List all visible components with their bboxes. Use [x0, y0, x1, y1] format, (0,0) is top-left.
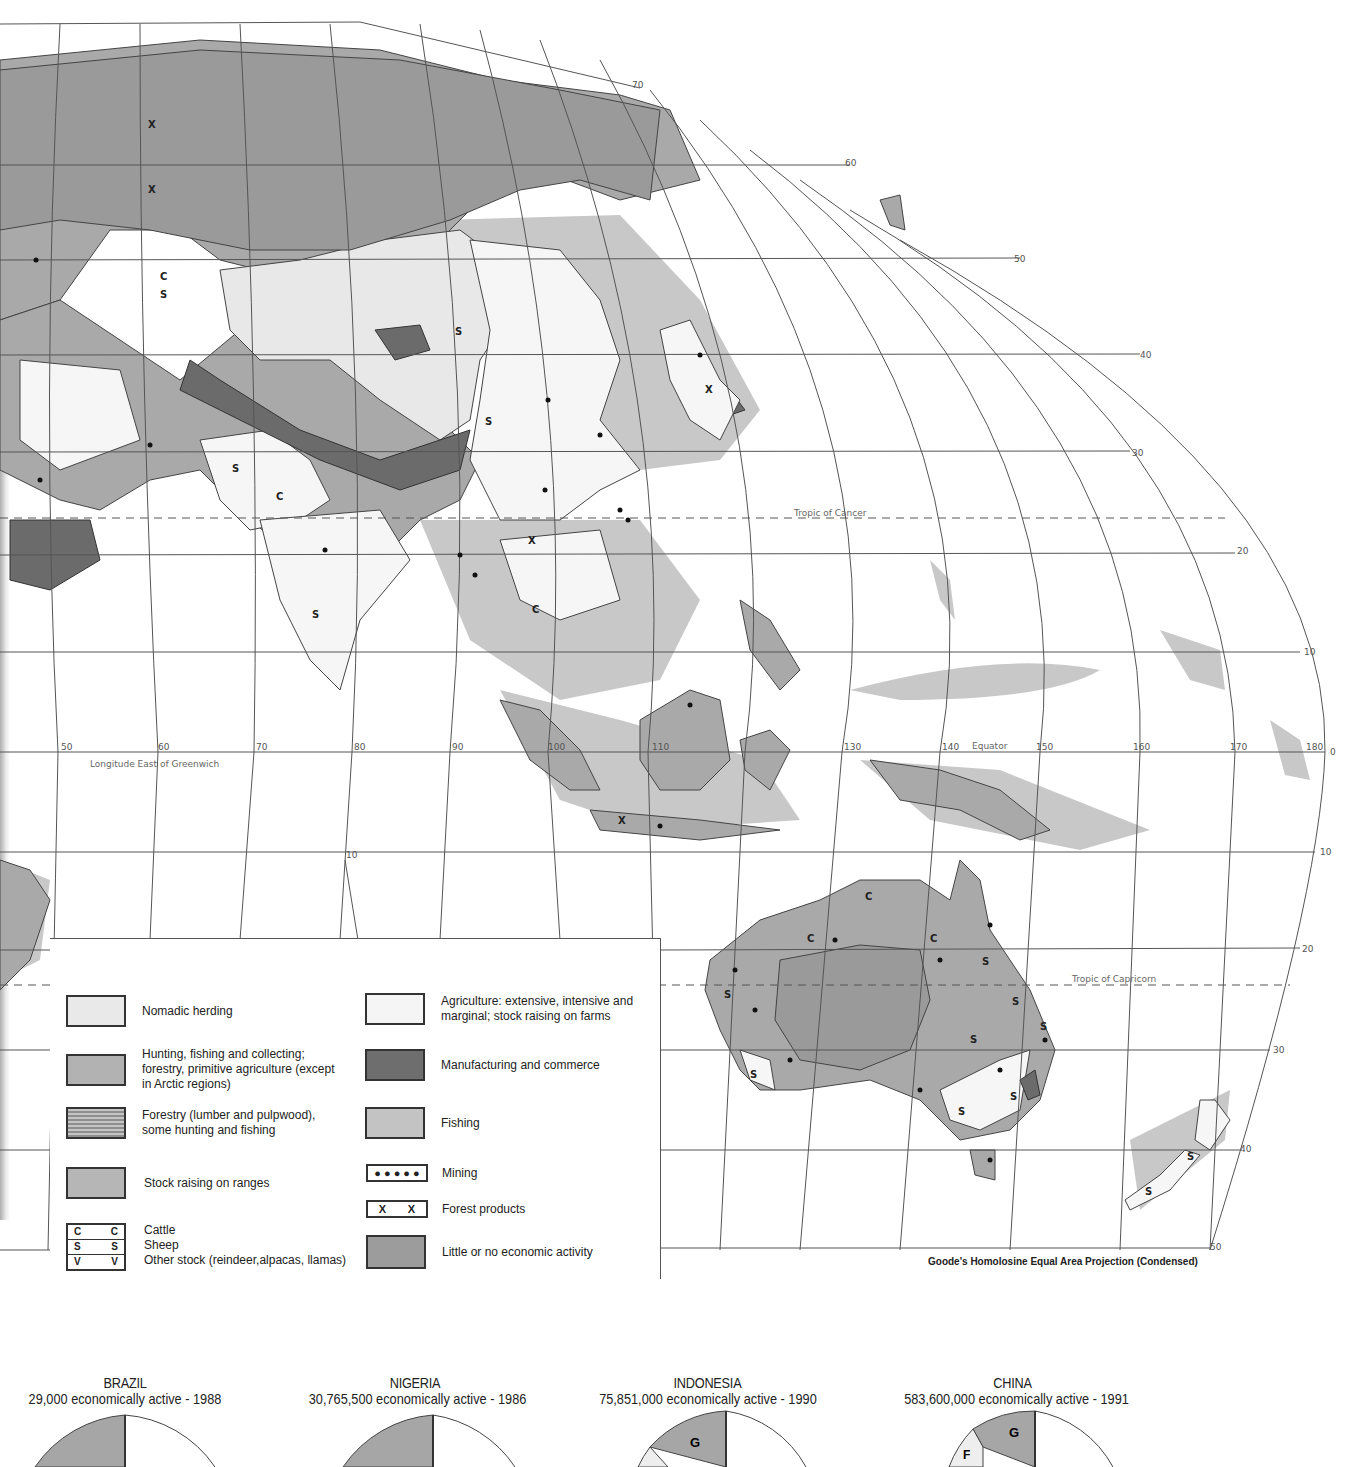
- forestry-swatch: [66, 1107, 126, 1139]
- svg-text:C: C: [276, 491, 283, 502]
- pie-title: CHINA: [904, 1375, 1121, 1391]
- pie-subtitle: 75,851,000 economically active - 1990: [599, 1391, 816, 1407]
- pie-china: CHINA 583,600,000 economically active - …: [885, 1375, 1140, 1467]
- svg-text:20: 20: [1302, 944, 1314, 954]
- svg-text:S: S: [160, 289, 167, 300]
- svg-text:90: 90: [452, 742, 464, 752]
- landmass-australia: [705, 860, 1055, 1180]
- pie-indonesia: INDONESIA 75,851,000 economically active…: [580, 1375, 835, 1467]
- svg-text:C: C: [807, 933, 814, 944]
- svg-text:60: 60: [158, 742, 170, 752]
- svg-text:10: 10: [1320, 847, 1332, 857]
- svg-text:X: X: [148, 184, 156, 195]
- svg-text:S: S: [750, 1069, 757, 1080]
- stock-symbols-swatch: CC SS VV: [66, 1223, 126, 1271]
- svg-text:30: 30: [1132, 448, 1144, 458]
- legend-label: Forest products: [442, 1202, 525, 1217]
- svg-text:150: 150: [1036, 742, 1053, 752]
- svg-text:180: 180: [1306, 742, 1323, 752]
- mining-swatch: ● ● ● ● ●: [366, 1164, 428, 1182]
- pie-chart: [315, 1407, 515, 1467]
- svg-text:S: S: [958, 1106, 965, 1117]
- svg-text:100: 100: [548, 742, 565, 752]
- pie-segment-label: F: [963, 1448, 970, 1462]
- legend-label: Mining: [442, 1166, 477, 1181]
- svg-text:50: 50: [61, 742, 73, 752]
- legend-label: Little or no economic activity: [442, 1245, 593, 1260]
- legend-label: Agriculture: extensive, intensive and ma…: [441, 994, 641, 1024]
- legend-item-forest-products: XX Forest products: [366, 1200, 525, 1218]
- svg-text:110: 110: [652, 742, 669, 752]
- svg-text:S: S: [485, 416, 492, 427]
- svg-text:S: S: [232, 463, 239, 474]
- legend-item-agriculture: Agriculture: extensive, intensive and ma…: [365, 993, 641, 1025]
- svg-text:20: 20: [1237, 546, 1249, 556]
- pie-subtitle: 583,600,000 economically active - 1991: [904, 1391, 1121, 1407]
- legend-item-nomadic-herding: Nomadic herding: [66, 995, 233, 1027]
- legend-label: Manufacturing and commerce: [441, 1058, 600, 1073]
- legend-item-hunting-fishing: Hunting, fishing and collecting; forestr…: [66, 1047, 342, 1092]
- legend-item-stock-symbols: CC SS VV Cattle Sheep Other stock (reind…: [66, 1223, 346, 1271]
- svg-text:S: S: [1145, 1186, 1152, 1197]
- pie-brazil: BRAZIL 29,000 economically active - 1988: [0, 1375, 250, 1467]
- svg-text:130: 130: [844, 742, 861, 752]
- legend-label: Fishing: [441, 1116, 480, 1131]
- little-activity-swatch: [366, 1235, 426, 1269]
- legend-item-forestry: Forestry (lumber and pulpwood), some hun…: [66, 1107, 342, 1139]
- hunting-fishing-swatch: [66, 1054, 126, 1086]
- legend-item-fishing: Fishing: [365, 1107, 480, 1139]
- legend-label: Forestry (lumber and pulpwood), some hun…: [142, 1108, 342, 1138]
- svg-text:30: 30: [1273, 1045, 1285, 1055]
- legend-item-stock-raising: Stock raising on ranges: [66, 1167, 269, 1199]
- pie-chart: G: [608, 1407, 808, 1467]
- pie-subtitle: 30,765,500 economically active - 1986: [309, 1391, 522, 1407]
- legend-item-manufacturing: Manufacturing and commerce: [365, 1049, 600, 1081]
- svg-text:X: X: [528, 535, 536, 546]
- svg-text:C: C: [930, 933, 937, 944]
- svg-text:S: S: [1012, 996, 1019, 1007]
- forest-products-swatch: XX: [366, 1200, 428, 1218]
- pie-chart: [25, 1407, 225, 1467]
- projection-caption: Goode's Homolosine Equal Area Projection…: [928, 1256, 1198, 1267]
- legend-item-little-activity: Little or no economic activity: [366, 1235, 593, 1269]
- svg-text:70: 70: [256, 742, 268, 752]
- agriculture-swatch: [365, 993, 425, 1025]
- svg-text:50: 50: [1014, 254, 1026, 264]
- svg-text:S: S: [312, 609, 319, 620]
- tropic-of-capricorn-label: Tropic of Capricorn: [1071, 974, 1156, 984]
- pie-segment-label: G: [1009, 1425, 1019, 1440]
- svg-text:S: S: [455, 326, 462, 337]
- svg-text:160: 160: [1133, 742, 1150, 752]
- fishing-swatch: [365, 1107, 425, 1139]
- svg-text:X: X: [618, 815, 626, 826]
- pie-title: BRAZIL: [19, 1375, 232, 1391]
- pie-title: INDONESIA: [599, 1375, 816, 1391]
- svg-text:60: 60: [845, 158, 857, 168]
- svg-text:10: 10: [346, 850, 358, 860]
- nomadic-herding-swatch: [66, 995, 126, 1027]
- svg-text:S: S: [1187, 1151, 1194, 1162]
- sheep-label: Sheep: [144, 1238, 346, 1253]
- pie-subtitle: 29,000 economically active - 1988: [19, 1391, 232, 1407]
- svg-text:140: 140: [942, 742, 959, 752]
- svg-text:0: 0: [1330, 747, 1336, 757]
- legend-label: Hunting, fishing and collecting; forestr…: [142, 1047, 342, 1092]
- svg-text:X: X: [148, 119, 156, 130]
- tropic-of-cancer-label: Tropic of Cancer: [793, 508, 867, 518]
- cattle-label: Cattle: [144, 1223, 346, 1238]
- pie-nigeria: NIGERIA 30,765,500 economically active -…: [290, 1375, 540, 1467]
- manufacturing-swatch: [365, 1049, 425, 1081]
- svg-text:70: 70: [632, 80, 644, 90]
- map-legend: Nomadic herding Hunting, fishing and col…: [50, 938, 661, 1279]
- svg-text:S: S: [970, 1034, 977, 1045]
- svg-text:S: S: [1040, 1021, 1047, 1032]
- equator-label: Equator: [972, 741, 1008, 751]
- other-stock-label: Other stock (reindeer,alpacas, llamas): [144, 1253, 346, 1268]
- svg-text:C: C: [532, 604, 539, 615]
- pie-title: NIGERIA: [309, 1375, 522, 1391]
- svg-text:40: 40: [1140, 350, 1152, 360]
- legend-label: Nomadic herding: [142, 1004, 233, 1019]
- pie-segment-label: G: [690, 1435, 700, 1450]
- svg-text:S: S: [1010, 1091, 1017, 1102]
- svg-text:X: X: [705, 384, 713, 395]
